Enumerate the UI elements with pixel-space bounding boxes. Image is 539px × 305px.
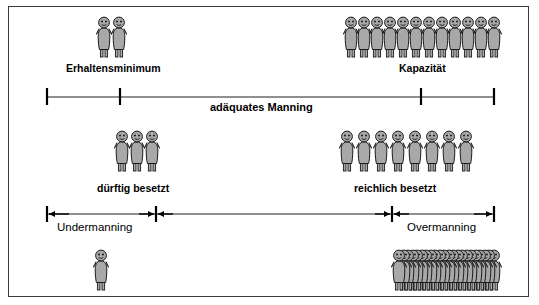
person-figure-icon <box>338 129 356 173</box>
undermanning-group <box>92 248 110 292</box>
person-figure-icon <box>355 129 373 173</box>
person-figure-icon <box>406 129 424 173</box>
kapazitaet-label: Kapazität <box>399 63 446 74</box>
diagram-frame: Erhaltensminimum <box>8 6 529 297</box>
manning-range-axis <box>39 203 504 223</box>
person-figure-icon <box>457 129 475 173</box>
undermanning-label: Undermanning <box>57 222 132 234</box>
person-figure-icon <box>372 129 390 173</box>
person-figure-icon <box>113 129 131 173</box>
kapazitaet-group <box>342 15 503 59</box>
erhaltensminimum-label: Erhaltensminimum <box>66 63 161 74</box>
overmanning-label: Overmanning <box>407 222 476 234</box>
person-figure-icon <box>92 248 110 292</box>
duerftig-besetzt-group <box>113 129 161 173</box>
person-figure-icon <box>342 15 360 59</box>
diagram-canvas: Erhaltensminimum <box>0 0 539 305</box>
adaequates-manning-label: adäquates Manning <box>210 102 313 113</box>
reichlich-besetzt-label: reichlich besetzt <box>354 183 436 194</box>
person-figure-icon <box>390 248 408 292</box>
duerftig-besetzt-label: dürftig besetzt <box>97 183 169 194</box>
reichlich-besetzt-group <box>338 129 475 173</box>
person-figure-icon <box>95 15 113 59</box>
person-figure-icon <box>423 129 441 173</box>
person-figure-icon <box>440 129 458 173</box>
person-figure-icon <box>389 129 407 173</box>
overmanning-group <box>390 248 503 292</box>
erhaltensminimum-group <box>95 15 128 59</box>
